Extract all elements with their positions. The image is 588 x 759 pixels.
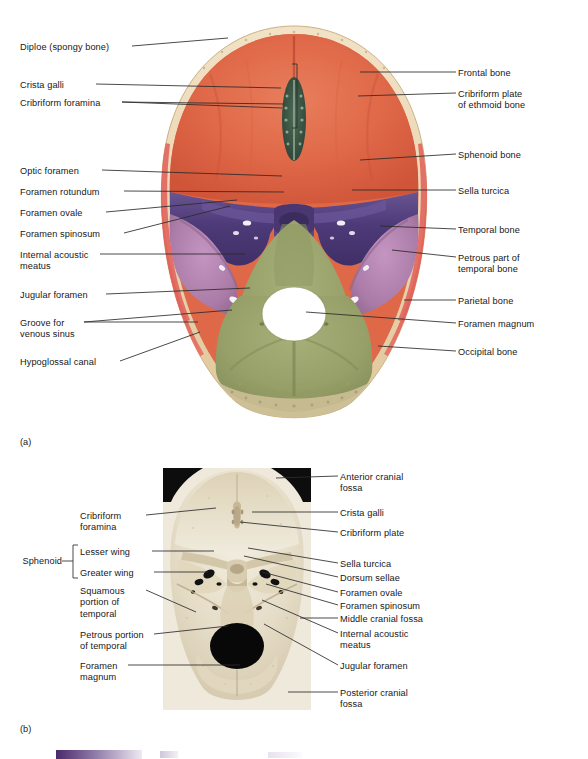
panel-b-label-right-1: Crista galli (340, 508, 384, 519)
panel-a-label-left-10: Hypoglossal canal (20, 357, 96, 368)
panel-a-label-left-4: Foramen rotundum (20, 187, 100, 198)
panel-b-label-left-1: Lesser wing (80, 547, 130, 558)
panel-b-label-right-2: Cribriform plate (340, 528, 404, 539)
panel-a-label-right-3: Sella turcica (458, 186, 509, 197)
panel-a-label-left-0: Diploe (spongy bone) (20, 42, 109, 53)
panel-a-label-right-4: Temporal bone (458, 225, 520, 236)
panel-a-label-right-6: Parietal bone (458, 296, 513, 307)
panel-a-label-left-6: Foramen spinosum (20, 229, 100, 240)
panel-a-label-left-8: Jugular foramen (20, 290, 88, 301)
panel-b-label-right-5: Foramen ovale (340, 588, 402, 599)
panel-a-label-left-2: Cribriform foramina (20, 98, 100, 109)
cranial-floor-drawing (150, 24, 438, 424)
panel-b-label-right-10: Posterior cranial fossa (340, 688, 408, 711)
panel-b-label-right-0: Anterior cranial fossa (340, 472, 403, 495)
panel-b-label-left-4: Petrous portion of temporal (80, 630, 144, 653)
panel-b-label-left-2: Greater wing (80, 568, 134, 579)
panel-b-label-right-4: Dorsum sellae (340, 573, 400, 584)
panel-a-label-left-5: Foramen ovale (20, 208, 82, 219)
panel-b-label-right-6: Foramen spinosum (340, 601, 420, 612)
panel-a-label-left-1: Crista galli (20, 80, 64, 91)
panel-a-label-right-0: Frontal bone (458, 68, 511, 79)
panel-b-label-left-5: Foramen magnum (80, 661, 117, 684)
panel-a-label-left-3: Optic foramen (20, 166, 79, 177)
panel-a-label-right-7: Foramen magnum (458, 319, 534, 330)
panel-a-label-right-8: Occipital bone (458, 347, 518, 358)
panel-a-label-left-9: Groove for venous sinus (20, 318, 75, 341)
panel-a-label-right-2: Sphenoid bone (458, 150, 521, 161)
panel-a-label-right-1: Cribriform plate of ethmoid bone (458, 89, 525, 112)
next-figure-swatch-3 (268, 752, 302, 758)
panel-b-label-left-0: Cribriform foramina (80, 511, 121, 534)
panel-a-caption: (a) (20, 437, 31, 447)
panel-a-illustration (150, 24, 438, 424)
sphenoid-group-label: Sphenoid (0, 556, 62, 567)
panel-b-label-right-8: Internal acoustic meatus (340, 629, 408, 652)
panel-b-label-left-3: Squamous portion of temporal (80, 586, 125, 620)
panel-a-label-left-7: Internal acoustic meatus (20, 250, 88, 273)
panel-b-label-right-3: Sella turcica (340, 559, 391, 570)
panel-a-label-right-5: Petrous part of temporal bone (458, 253, 520, 276)
panel-b-caption: (b) (20, 724, 31, 734)
panel-b-photograph (163, 468, 311, 710)
next-figure-swatch (56, 750, 142, 759)
panel-b-label-right-7: Middle cranial fossa (340, 614, 423, 625)
next-figure-swatch-2 (160, 751, 178, 758)
skull-base-photo (163, 468, 311, 710)
panel-b-label-right-9: Jugular foramen (340, 661, 408, 672)
